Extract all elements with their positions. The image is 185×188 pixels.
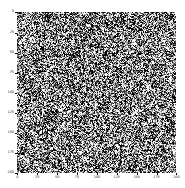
y-tick-mark	[15, 113, 17, 114]
y-tick-mark	[15, 53, 17, 54]
y-tick-label: 175	[8, 152, 14, 155]
y-tick-mark	[15, 12, 17, 13]
y-tick-label: 125	[8, 111, 14, 114]
x-tick-label: 200	[173, 176, 179, 179]
x-tick-label: 150	[133, 176, 139, 179]
y-tick-label: 150	[8, 131, 14, 134]
x-tick-label: 100	[94, 176, 100, 179]
y-tick-mark	[15, 93, 17, 94]
y-tick-label: 50	[10, 51, 14, 54]
x-tick-label: 25	[35, 176, 39, 179]
y-tick-mark	[15, 153, 17, 154]
x-tick-label: 0	[16, 176, 18, 179]
figure-canvas: 0255075100125150175200 02550751001251501…	[0, 0, 185, 188]
x-tick-label: 50	[55, 176, 59, 179]
image-plot-axes	[17, 12, 176, 173]
y-tick-label: 200	[8, 172, 14, 175]
y-tick-label: 0	[12, 11, 14, 14]
y-tick-label: 25	[10, 31, 14, 34]
y-tick-mark	[15, 133, 17, 134]
y-tick-mark	[15, 33, 17, 34]
y-tick-mark	[15, 73, 17, 74]
noise-image-raster	[17, 12, 176, 173]
x-tick-label: 125	[114, 176, 120, 179]
x-tick-label: 175	[153, 176, 159, 179]
y-tick-label: 75	[10, 71, 14, 74]
y-tick-label: 100	[8, 91, 14, 94]
x-tick-label: 75	[75, 176, 79, 179]
